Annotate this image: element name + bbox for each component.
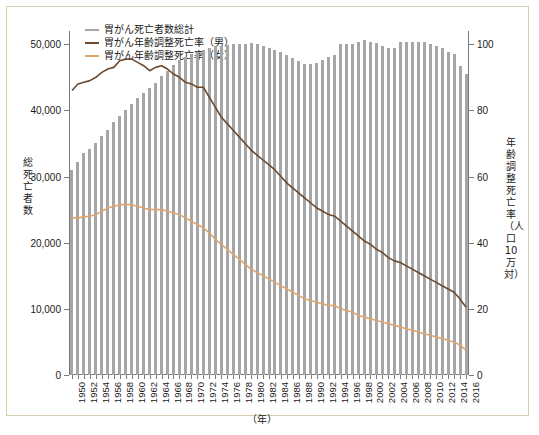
x-tick bbox=[209, 375, 210, 379]
y-tick-label-right: 0 bbox=[477, 370, 483, 381]
x-tick bbox=[156, 375, 157, 379]
x-tick bbox=[144, 375, 145, 379]
x-tick-label: 1994 bbox=[339, 382, 350, 403]
line-female bbox=[72, 205, 466, 351]
y-tick-label-right: 40 bbox=[477, 237, 488, 248]
x-tick-label: 1960 bbox=[136, 382, 147, 403]
x-tick bbox=[132, 375, 133, 379]
y-axis-title-right: 年齢調整死亡率（人口10万対） bbox=[504, 137, 518, 281]
x-tick bbox=[191, 375, 192, 379]
x-tick bbox=[430, 375, 431, 379]
y-tick-label-right: 80 bbox=[477, 105, 488, 116]
x-tick bbox=[424, 375, 425, 379]
y-tick-label-right: 60 bbox=[477, 171, 488, 182]
x-tick-label: 1976 bbox=[231, 382, 242, 403]
y-tick-label-left: 20,000 bbox=[30, 237, 61, 248]
x-tick bbox=[269, 375, 270, 379]
y-tick-left bbox=[64, 243, 69, 244]
x-tick bbox=[227, 375, 228, 379]
x-tick bbox=[287, 375, 288, 379]
y-axis-title-left: 総死亡者数 bbox=[21, 157, 35, 217]
x-tick-label: 2004 bbox=[398, 382, 409, 403]
x-tick bbox=[376, 375, 377, 379]
x-tick bbox=[406, 375, 407, 379]
x-tick-label: 2000 bbox=[374, 382, 385, 403]
y-tick-label-left: 40,000 bbox=[30, 105, 61, 116]
x-tick-label: 1972 bbox=[207, 382, 218, 403]
x-tick bbox=[466, 375, 467, 379]
x-tick-label: 1964 bbox=[160, 382, 171, 403]
x-tick bbox=[251, 375, 252, 379]
x-tick bbox=[353, 375, 354, 379]
x-tick bbox=[412, 375, 413, 379]
x-tick bbox=[436, 375, 437, 379]
y-tick-right bbox=[469, 375, 474, 376]
x-tick bbox=[257, 375, 258, 379]
y-tick-label-right: 20 bbox=[477, 303, 488, 314]
x-tick bbox=[460, 375, 461, 379]
x-tick bbox=[341, 375, 342, 379]
x-tick-label: 1974 bbox=[219, 382, 230, 403]
x-tick bbox=[179, 375, 180, 379]
x-tick bbox=[197, 375, 198, 379]
x-tick-label: 1968 bbox=[183, 382, 194, 403]
x-tick bbox=[245, 375, 246, 379]
x-tick-label: 1986 bbox=[291, 382, 302, 403]
x-tick bbox=[78, 375, 79, 379]
x-tick bbox=[185, 375, 186, 379]
line-male bbox=[72, 59, 466, 307]
x-tick-label: 1982 bbox=[267, 382, 278, 403]
x-tick-label: 1996 bbox=[351, 382, 362, 403]
x-tick bbox=[108, 375, 109, 379]
y-tick-label-left: 0 bbox=[55, 370, 61, 381]
x-tick bbox=[263, 375, 264, 379]
x-tick bbox=[305, 375, 306, 379]
x-tick bbox=[239, 375, 240, 379]
x-tick bbox=[168, 375, 169, 379]
plot-area: 010,00020,00030,00040,00050,000 02040608… bbox=[69, 31, 469, 375]
x-tick bbox=[454, 375, 455, 379]
x-tick-label: 1992 bbox=[327, 382, 338, 403]
x-tick bbox=[96, 375, 97, 379]
x-tick bbox=[347, 375, 348, 379]
y-tick-left bbox=[64, 177, 69, 178]
y-tick-label-left: 50,000 bbox=[30, 39, 61, 50]
x-tick bbox=[299, 375, 300, 379]
x-tick bbox=[394, 375, 395, 379]
x-tick-label: 1988 bbox=[303, 382, 314, 403]
x-tick-label: 2008 bbox=[422, 382, 433, 403]
x-tick-label: 1950 bbox=[76, 382, 87, 403]
y-tick-left bbox=[64, 110, 69, 111]
x-tick bbox=[293, 375, 294, 379]
x-tick-label: 1952 bbox=[88, 382, 99, 403]
x-tick-label: 2016 bbox=[470, 382, 481, 403]
y-tick-left bbox=[64, 309, 69, 310]
y-tick-label-left: 10,000 bbox=[30, 303, 61, 314]
x-tick bbox=[418, 375, 419, 379]
y-tick-right bbox=[469, 309, 474, 310]
x-tick bbox=[400, 375, 401, 379]
x-tick-label: 2014 bbox=[458, 382, 469, 403]
x-tick bbox=[114, 375, 115, 379]
y-tick-label-left: 30,000 bbox=[30, 171, 61, 182]
x-tick-label: 2010 bbox=[434, 382, 445, 403]
x-tick-label: 1984 bbox=[279, 382, 290, 403]
x-tick-label: 2002 bbox=[386, 382, 397, 403]
x-tick bbox=[275, 375, 276, 379]
x-tick bbox=[335, 375, 336, 379]
x-tick-label: 1998 bbox=[363, 382, 374, 403]
y-tick-right bbox=[469, 44, 474, 45]
chart-frame: 胃がん死亡者数総計 胃がん年齢調整死亡率（男） 胃がん年齢調整死亡率（女） 総死… bbox=[6, 6, 529, 416]
x-tick-label: 1966 bbox=[172, 382, 183, 403]
x-tick bbox=[162, 375, 163, 379]
x-tick bbox=[102, 375, 103, 379]
x-tick-label: 1954 bbox=[100, 382, 111, 403]
x-tick-label: 2006 bbox=[410, 382, 421, 403]
x-tick-label: 1978 bbox=[243, 382, 254, 403]
x-tick bbox=[90, 375, 91, 379]
x-axis-title: （年） bbox=[247, 411, 277, 426]
y-tick-right bbox=[469, 110, 474, 111]
x-tick-label: 1990 bbox=[315, 382, 326, 403]
y-tick-left bbox=[64, 44, 69, 45]
y-tick-left bbox=[64, 375, 69, 376]
